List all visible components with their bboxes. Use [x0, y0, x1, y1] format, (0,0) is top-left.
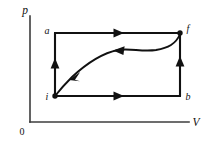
volume-axis-label: V — [192, 116, 201, 128]
state-label-a: a — [45, 25, 50, 36]
state-dots-group — [52, 30, 182, 98]
cycle-edges-group — [54, 33, 181, 96]
origin-label: 0 — [20, 126, 25, 137]
curved-process-group — [55, 34, 180, 96]
state-dot-f — [177, 30, 182, 35]
state-label-i: i — [46, 91, 49, 102]
state-label-f: f — [187, 23, 191, 34]
arrow-right-top-edge — [114, 29, 125, 38]
arrow-up-left-edge — [51, 58, 60, 69]
pressure-axis-label: p — [21, 4, 28, 17]
arrow-left-curve-upper — [113, 46, 125, 55]
process-curve-f-to-i — [55, 34, 180, 96]
pv-diagram-figure: p V 0 — [0, 0, 213, 145]
state-dot-i — [52, 93, 57, 98]
axes-group: p V 0 — [20, 4, 202, 137]
state-label-b: b — [186, 91, 191, 102]
pv-diagram-canvas: p V 0 — [0, 0, 213, 145]
arrow-up-right-edge — [176, 56, 185, 67]
arrow-right-bottom-edge — [114, 92, 125, 101]
arrowheads-group — [51, 29, 185, 101]
